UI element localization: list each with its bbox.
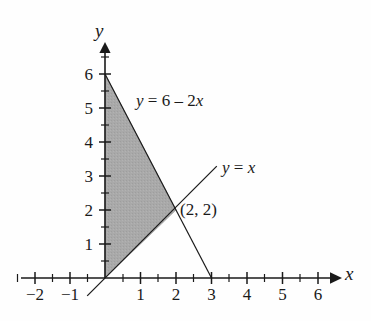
line2-label-operator-part: =	[230, 158, 248, 177]
intersection-point-label: (2, 2)	[180, 201, 217, 218]
x-tick-label--1: −1	[58, 286, 82, 303]
y-tick-label-2: 2	[73, 202, 93, 219]
y-tick-label-6: 6	[73, 66, 93, 83]
x-tick-label-2: 2	[164, 286, 188, 303]
x-tick-label-1: 1	[129, 286, 153, 303]
line-label-y-equals-x: y = x	[222, 159, 255, 176]
x-tick-label-4: 4	[235, 286, 259, 303]
y-tick-label-3: 3	[73, 168, 93, 185]
line-label-y-equals-6-minus-2x: y = 6 – 2x	[136, 92, 203, 109]
x-tick-label-6: 6	[306, 286, 330, 303]
x-tick-label-3: 3	[200, 286, 224, 303]
y-axis-label: y	[95, 21, 103, 40]
y-tick-label-5: 5	[73, 100, 93, 117]
x-tick-label--2: −2	[23, 286, 47, 303]
line-label-var-y: y	[136, 91, 144, 110]
graph-figure: y x −2 −1 1 2 3 4 5 6 1 2 3 4 5 6 y = 6 …	[0, 0, 371, 321]
coordinate-plane	[0, 0, 371, 321]
line2-label-var-y: y	[222, 158, 230, 177]
x-axis-arrow-icon	[330, 272, 342, 284]
x-tick-label-5: 5	[271, 286, 295, 303]
y-tick-label-4: 4	[73, 134, 93, 151]
y-axis-arrow-icon	[99, 42, 110, 53]
line-label-operator-part: = 6 – 2	[144, 91, 196, 110]
y-tick-label-1: 1	[73, 236, 93, 253]
x-axis-label: x	[345, 264, 353, 283]
line2-label-var-x: x	[248, 158, 256, 177]
line-label-var-x: x	[196, 91, 204, 110]
